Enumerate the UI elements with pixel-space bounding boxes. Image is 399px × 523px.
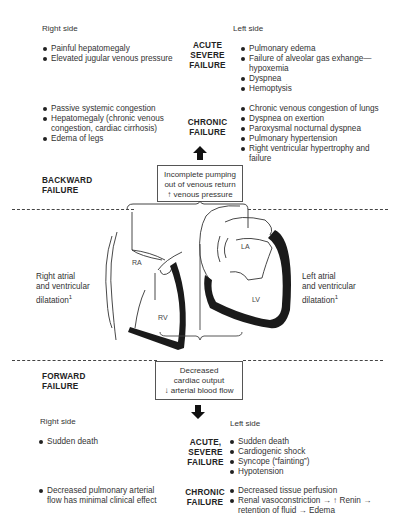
backward-left-side-header: Left side xyxy=(233,24,263,33)
forward-acute-severe-failure-label: ACUTE, SEVERE FAILURE xyxy=(178,438,233,468)
list-item: Sudden death xyxy=(38,437,168,447)
label-line: FAILURE xyxy=(42,186,92,196)
backward-acute-left-list: Pulmonary edema Failure of alveolar gas … xyxy=(240,44,380,94)
heart-label-la: LA xyxy=(241,243,250,250)
forward-left-side-header: Left side xyxy=(230,419,260,428)
backward-acute-severe-failure-label: ACUTE SEVERE FAILURE xyxy=(180,41,235,71)
list-item: Elevated jugular venous pressure xyxy=(42,54,182,64)
caption-line: and ventricular xyxy=(302,282,356,292)
caption-line: dilatation xyxy=(302,296,335,305)
forward-chronic-right-list: Decreased pulmonary arterial flow has mi… xyxy=(38,486,163,506)
backward-acute-right-list: Painful hepatomegaly Elevated jugular ve… xyxy=(42,44,182,64)
box-line: ↓ arterial blood flow xyxy=(156,386,242,396)
list-item: Dyspnea xyxy=(240,74,380,84)
label-line: FAILURE xyxy=(176,498,234,508)
heart-label-ra: RA xyxy=(132,259,142,266)
box-line: out of venous return xyxy=(158,180,242,190)
list-item: Hepatomegaly (chronic venous congestion,… xyxy=(42,114,170,134)
list-item: Decreased pulmonary arterial flow has mi… xyxy=(38,486,163,506)
label-line: SEVERE xyxy=(178,448,233,458)
label-line: CHRONIC xyxy=(180,118,235,128)
list-item: Renal vasoconstriction → ↑ Renin → reten… xyxy=(229,496,374,516)
backward-chronic-failure-label: CHRONIC FAILURE xyxy=(180,118,235,138)
backward-chronic-left-list: Chronic venous congestion of lungs Dyspn… xyxy=(240,104,390,164)
label-line: FAILURE xyxy=(178,458,233,468)
label-line: FAILURE xyxy=(180,61,235,71)
list-item: Right ventricular hypertrophy and failur… xyxy=(240,144,390,164)
forward-failure-label: FORWARD FAILURE xyxy=(42,372,86,392)
up-arrow-icon xyxy=(192,145,208,161)
backward-mechanism-box: Incomplete pumping out of venous return … xyxy=(157,165,243,202)
heart-label-lv: LV xyxy=(252,296,260,303)
label-line: ACUTE xyxy=(180,41,235,51)
list-item: Dyspnea on exertion xyxy=(240,114,390,124)
label-line: BACKWARD xyxy=(42,176,92,186)
box-line: Incomplete pumping xyxy=(158,170,242,180)
list-item: Sudden death xyxy=(229,437,379,447)
divider-dashed-bottom-left xyxy=(12,360,157,361)
caption-line: and ventricular xyxy=(36,282,90,292)
backward-right-side-header: Right side xyxy=(42,24,78,33)
footnote-mark: 1 xyxy=(335,294,338,300)
list-item: Edema of legs xyxy=(42,134,170,144)
footnote-mark: 1 xyxy=(69,294,72,300)
list-item: Painful hepatomegaly xyxy=(42,44,182,54)
label-line: FAILURE xyxy=(42,382,86,392)
backward-chronic-right-list: Passive systemic congestion Hepatomegaly… xyxy=(42,104,170,144)
label-line: FORWARD xyxy=(42,372,86,382)
list-item: Passive systemic congestion xyxy=(42,104,170,114)
right-dilatation-caption: Right atrial and ventricular dilatation1 xyxy=(36,272,90,306)
forward-chronic-left-list: Decreased tissue perfusion Renal vasocon… xyxy=(229,486,374,516)
label-line: FAILURE xyxy=(180,128,235,138)
list-item: Decreased tissue perfusion xyxy=(229,486,374,496)
list-item: Chronic venous congestion of lungs xyxy=(240,104,390,114)
label-line: ACUTE, xyxy=(178,438,233,448)
list-item: Syncope (“fainting”) xyxy=(229,457,379,467)
caption-line: dilatation xyxy=(36,296,69,305)
list-item: Pulmonary hypertension xyxy=(240,134,390,144)
list-item: Hemoptysis xyxy=(240,84,380,94)
forward-acute-right-list: Sudden death xyxy=(38,437,168,447)
caption-line: Right atrial xyxy=(36,272,90,282)
list-item: Hypotension xyxy=(229,467,379,477)
forward-acute-left-list: Sudden death Cardiogenic shock Syncope (… xyxy=(229,437,379,477)
backward-failure-label: BACKWARD FAILURE xyxy=(42,176,92,196)
forward-mechanism-box: Decreased cardiac output ↓ arterial bloo… xyxy=(155,361,243,400)
box-line: ↑ venous pressure xyxy=(158,190,242,200)
list-item: Failure of alveolar gas exhange—hypoxemi… xyxy=(240,54,380,74)
list-item: Pulmonary edema xyxy=(240,44,380,54)
list-item: Cardiogenic shock xyxy=(229,447,379,457)
forward-chronic-failure-label: CHRONIC FAILURE xyxy=(176,488,234,508)
box-line: cardiac output xyxy=(156,376,242,386)
left-dilatation-caption: Left atrial and ventricular dilatation1 xyxy=(302,272,356,306)
caption-line: Left atrial xyxy=(302,272,356,282)
forward-right-side-header: Right side xyxy=(40,417,76,426)
heart-label-rv: RV xyxy=(158,314,168,321)
list-item: Paroxysmal nocturnal dyspnea xyxy=(240,124,390,134)
down-arrow-icon xyxy=(190,404,206,420)
box-line: Decreased xyxy=(156,366,242,376)
label-line: CHRONIC xyxy=(176,488,234,498)
label-line: SEVERE xyxy=(180,51,235,61)
divider-dashed-bottom-right xyxy=(243,360,383,361)
